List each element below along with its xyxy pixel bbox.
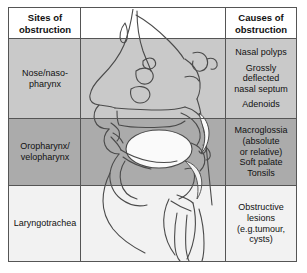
sagittal-head-airway-diagram xyxy=(81,9,225,261)
cause-item: Adenoids xyxy=(234,99,288,110)
site-nose-line-1: Nose/naso- xyxy=(22,68,68,79)
figure-frame: Sites of obstruction Causes of obstructi… xyxy=(8,7,297,262)
sites-header-line-2: obstruction xyxy=(19,24,71,35)
sagittal-head-airway-svg xyxy=(81,9,225,261)
cause-item: Grossly xyxy=(234,63,288,74)
site-label-oropharynx-velopharynx: Oropharynx/ velopharynx xyxy=(10,119,80,185)
cause-item: (absolute xyxy=(234,136,287,147)
cause-item: deflected xyxy=(234,73,288,84)
sites-column-header: Sites of obstruction xyxy=(10,9,80,38)
cause-item: nasal septum xyxy=(234,84,288,95)
causes-list-laryngotrachea: Obstructive lesions (e.g.tumour, cysts) xyxy=(226,186,296,261)
causes-list-oropharynx-velopharynx: Macroglossia (absolute or relative) Soft… xyxy=(226,119,296,185)
cause-item: Tonsils xyxy=(234,168,287,179)
cause-item: Soft palate xyxy=(234,157,287,168)
site-oro-line-1: Oropharynx/ xyxy=(20,141,70,152)
cause-item: Obstructive xyxy=(237,202,285,213)
causes-header-line-1: Causes of xyxy=(235,12,287,23)
site-oro-line-2: velopharynx xyxy=(20,152,70,163)
site-label-laryngotrachea: Laryngotrachea xyxy=(10,186,80,261)
sites-header-line-1: Sites of xyxy=(19,12,71,23)
site-nose-line-2: pharynx xyxy=(22,79,68,90)
cause-item: Nasal polyps xyxy=(234,47,288,58)
causes-list-nose-nasopharynx: Nasal polyps Grossly deflected nasal sep… xyxy=(226,39,296,118)
cause-item: lesions xyxy=(237,213,285,224)
cause-item: (e.g.tumour, xyxy=(237,224,285,235)
airway-obstruction-figure: Sites of obstruction Causes of obstructi… xyxy=(0,0,307,273)
causes-header-line-2: obstruction xyxy=(235,24,287,35)
cause-item: or relative) xyxy=(234,147,287,158)
column-divider-left xyxy=(80,8,81,261)
cause-item: Macroglossia xyxy=(234,125,287,136)
causes-column-header: Causes of obstruction xyxy=(226,9,296,38)
site-larynx-line-1: Laryngotrachea xyxy=(14,218,77,229)
site-label-nose-nasopharynx: Nose/naso- pharynx xyxy=(10,39,80,118)
cause-item: cysts) xyxy=(237,234,285,245)
